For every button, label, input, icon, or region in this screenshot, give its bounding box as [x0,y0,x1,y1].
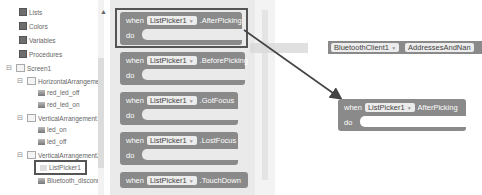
arrow-annotation [0,0,482,195]
placed-event-block-afterpicking[interactable]: whenListPicker1▼AfterPicking do [338,99,466,131]
do-slot[interactable] [360,116,466,127]
component-dropdown[interactable]: ListPicker1▼ [365,103,415,112]
dropdown-arrow-icon: ▼ [407,105,412,111]
